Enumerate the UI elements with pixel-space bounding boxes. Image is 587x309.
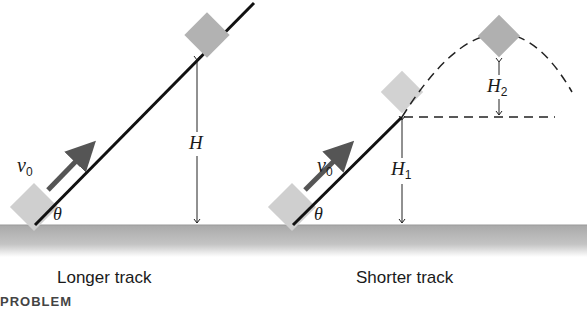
velocity-label-left: v0: [17, 154, 33, 177]
height-label-H2: H2: [487, 75, 507, 97]
top-block-left: [184, 12, 229, 57]
angle-label-right: θ: [314, 204, 323, 225]
velocity-arrow-left: [48, 155, 82, 190]
peak-block: [478, 15, 520, 57]
height-label-H1: H1: [391, 158, 411, 180]
height-label-H: H: [189, 132, 203, 154]
longer-track-panel: [10, 3, 254, 231]
start-block-right: [268, 183, 316, 231]
shorter-track-incline: [293, 117, 402, 225]
angle-label-left: θ: [53, 204, 62, 225]
caption-shorter-track: Shorter track: [356, 268, 453, 288]
cut-off-heading: PROBLEM: [0, 294, 72, 309]
launch-block-right: [381, 71, 423, 113]
caption-longer-track: Longer track: [57, 268, 152, 288]
ground: [0, 225, 587, 257]
velocity-label-right: v0: [317, 154, 333, 177]
shorter-track-panel: [268, 15, 572, 231]
